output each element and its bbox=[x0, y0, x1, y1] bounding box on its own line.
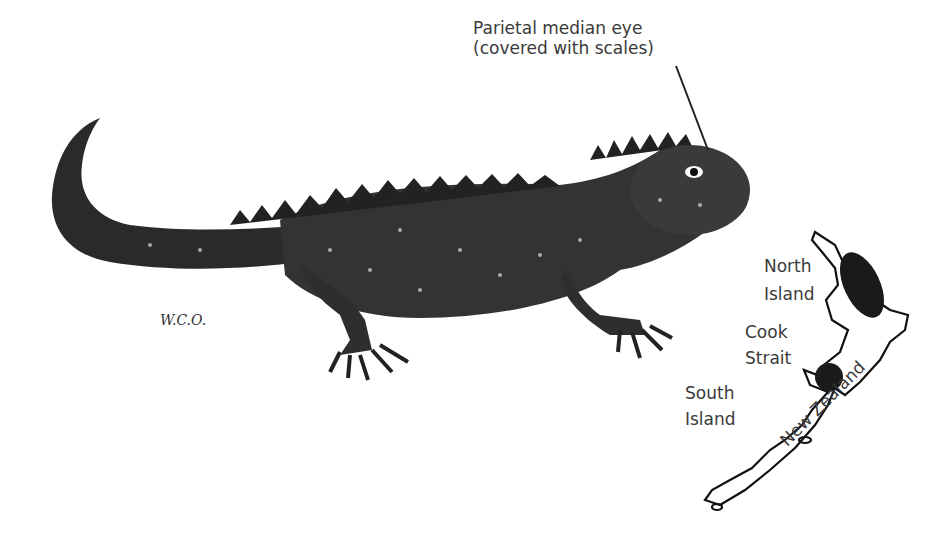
parietal-eye-annotation: Parietal median eye (covered with scales… bbox=[473, 18, 654, 58]
north-island-label: North Island bbox=[764, 256, 815, 304]
south-island-label: South Island bbox=[685, 383, 736, 429]
annotation-line-1: Parietal median eye bbox=[473, 18, 654, 38]
cook-strait-label: Cook Strait bbox=[745, 322, 791, 368]
annotation-line-2: (covered with scales) bbox=[473, 38, 654, 58]
artist-signature: W.C.O. bbox=[160, 312, 206, 328]
